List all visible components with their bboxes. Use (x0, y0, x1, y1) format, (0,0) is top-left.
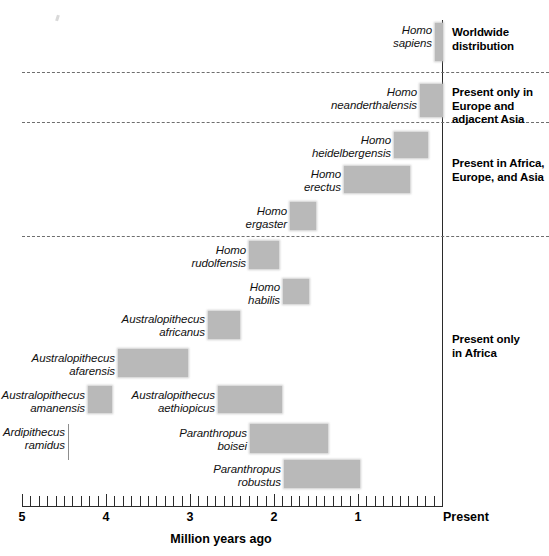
axis-tick-minor (366, 496, 367, 506)
axis-tick-minor (400, 496, 401, 506)
axis-tick-minor (198, 496, 199, 506)
axis-tick-minor (232, 496, 233, 506)
axis-tick-minor (47, 496, 48, 506)
axis-tick-minor (257, 496, 258, 506)
axis-tick-minor (417, 496, 418, 506)
axis-tick-minor (215, 496, 216, 506)
axis-tick-label: 1 (355, 510, 362, 524)
hominin-timeline-figure: Homo sapiensHomo neanderthalensisHomo he… (0, 0, 549, 556)
axis-tick-minor (341, 496, 342, 506)
axis-tick-minor (131, 496, 132, 506)
species-range-bar (208, 311, 240, 339)
axis-tick-minor (148, 496, 149, 506)
axis-tick-minor (434, 496, 435, 506)
group-caption-2: Present in Africa, Europe, and Asia (452, 157, 544, 184)
axis-tick-minor (350, 496, 351, 506)
species-range-bar (290, 202, 316, 230)
species-label: Paranthropus robustus (0, 463, 281, 488)
axis-tick-minor (425, 496, 426, 506)
axis-tick-minor (249, 496, 250, 506)
axis-tick-minor (282, 496, 283, 506)
species-range-bar (249, 241, 279, 269)
axis-tick-minor (98, 496, 99, 506)
axis-tick-major (22, 494, 23, 506)
axis-tick-minor (299, 496, 300, 506)
axis-tick-minor (140, 496, 141, 506)
axis-tick-minor (291, 496, 292, 506)
group-separator-2 (22, 236, 549, 237)
axis-tick-major (106, 494, 107, 506)
time-axis-line (22, 506, 443, 507)
axis-tick-minor (56, 496, 57, 506)
axis-tick-label: 2 (271, 510, 278, 524)
axis-tick-minor (123, 496, 124, 506)
axis-tick-minor (408, 496, 409, 506)
plot-area: Homo sapiensHomo neanderthalensisHomo he… (0, 0, 549, 556)
species-label: Homo rudolfensis (0, 244, 246, 269)
axis-tick-minor (383, 496, 384, 506)
axis-tick-major (274, 494, 275, 506)
axis-tick-minor (165, 496, 166, 506)
axis-tick-label: 5 (19, 510, 26, 524)
axis-tick-minor (442, 496, 443, 506)
axis-tick-minor (224, 496, 225, 506)
axis-tick-major (358, 494, 359, 506)
axis-tick-minor (72, 496, 73, 506)
axis-tick-minor (114, 496, 115, 506)
axis-title: Million years ago (0, 532, 442, 546)
axis-tick-minor (324, 496, 325, 506)
axis-tick-label: 4 (103, 510, 110, 524)
axis-tick-minor (266, 496, 267, 506)
axis-tick-minor (182, 496, 183, 506)
species-label: Australopithecus africanus (0, 313, 205, 338)
axis-tick-minor (64, 496, 65, 506)
species-range-bar (283, 279, 309, 304)
axis-tick-minor (156, 496, 157, 506)
axis-tick-label: 3 (187, 510, 194, 524)
species-label: Australopithecus aethiopicus (0, 389, 215, 414)
species-label: Paranthropus boisei (0, 427, 247, 452)
group-separator-0 (22, 72, 549, 73)
species-label: Homo erectus (0, 168, 341, 193)
axis-tick-minor (207, 496, 208, 506)
axis-tick-major (190, 494, 191, 506)
axis-tick-minor (316, 496, 317, 506)
species-range-bar (435, 23, 443, 61)
species-range-bar (218, 386, 282, 413)
axis-tick-minor (333, 496, 334, 506)
axis-tick-minor (240, 496, 241, 506)
species-label: Homo sapiens (0, 24, 432, 49)
species-range-bar (394, 132, 428, 158)
axis-tick-minor (392, 496, 393, 506)
species-label: Homo habilis (0, 281, 280, 306)
species-range-bar (118, 349, 188, 377)
species-range-bar (344, 166, 410, 193)
axis-tick-minor (81, 496, 82, 506)
species-range-bar (284, 460, 360, 488)
axis-tick-minor (30, 496, 31, 506)
axis-present-label: Present (443, 510, 489, 524)
group-caption-1: Present only in Europe and adjacent Asia (452, 86, 533, 127)
species-range-bar (250, 424, 328, 453)
species-label: Australopithecus afarensis (0, 352, 115, 377)
axis-tick-minor (173, 496, 174, 506)
group-caption-3: Present only in Africa (452, 333, 520, 360)
species-label: Homo heidelbergensis (0, 134, 391, 159)
axis-tick-minor (89, 496, 90, 506)
species-label: Homo neanderthalensis (0, 86, 417, 111)
axis-tick-minor (39, 496, 40, 506)
axis-tick-minor (308, 496, 309, 506)
axis-tick-minor (375, 496, 376, 506)
group-caption-0: Worldwide distribution (452, 26, 514, 53)
species-range-bar (420, 84, 443, 117)
species-label: Homo ergaster (0, 205, 287, 230)
